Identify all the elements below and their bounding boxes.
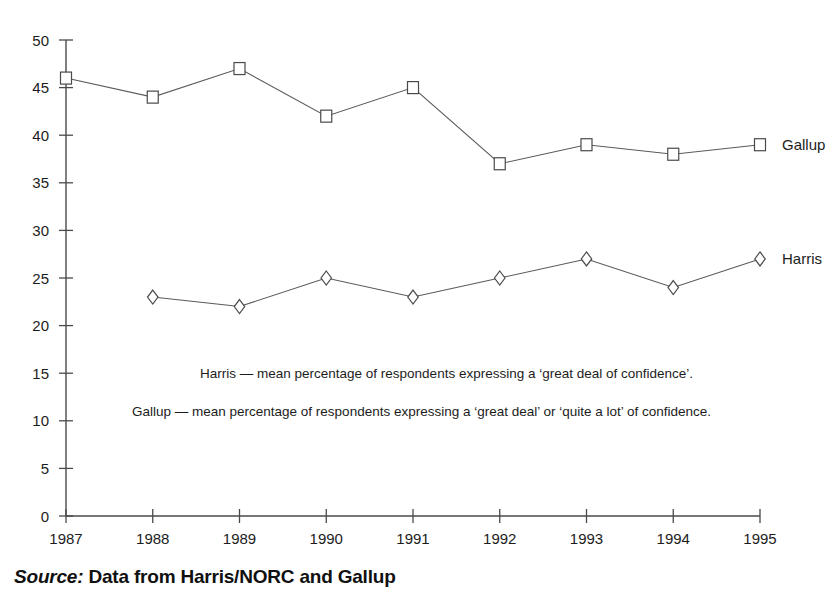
y-tick-label: 35 — [32, 174, 49, 191]
series-label-gallup: Gallup — [782, 136, 825, 153]
annotation-line-2: Gallup — mean percentage of respondents … — [132, 404, 711, 419]
x-tick-label: 1994 — [657, 530, 690, 547]
data-series-group — [61, 63, 766, 314]
marker-gallup — [234, 63, 245, 75]
marker-gallup — [147, 91, 158, 103]
marker-gallup — [581, 139, 592, 151]
y-tick-label: 50 — [32, 32, 49, 49]
marker-harris — [755, 252, 766, 266]
y-tick-label: 5 — [41, 460, 49, 477]
marker-harris — [321, 271, 332, 285]
marker-gallup — [755, 139, 766, 151]
annotation-line-1: Harris — mean percentage of respondents … — [200, 366, 693, 381]
line-chart-plot: 05101520253035404550 1987198819891990199… — [0, 0, 826, 616]
x-tick-label: 1991 — [396, 530, 429, 547]
marker-harris — [668, 281, 679, 295]
marker-gallup — [408, 82, 419, 94]
y-tick-label: 25 — [32, 270, 49, 287]
y-tick-label: 30 — [32, 222, 49, 239]
chart-figure: 05101520253035404550 1987198819891990199… — [0, 0, 826, 616]
series-labels: GallupHarris — [782, 136, 825, 267]
x-axis: 198719881989199019911992199319941995 — [49, 509, 776, 547]
x-tick-label: 1995 — [743, 530, 776, 547]
source-text: Data from Harris/NORC and Gallup — [88, 566, 395, 587]
marker-gallup — [321, 110, 332, 122]
source-keyword: Source: — [14, 566, 83, 587]
y-tick-label: 10 — [32, 412, 49, 429]
x-tick-label: 1989 — [223, 530, 256, 547]
y-tick-label: 15 — [32, 365, 49, 382]
marker-gallup — [668, 148, 679, 160]
chart-annotations: Harris — mean percentage of respondents … — [132, 366, 711, 419]
x-tick-label: 1987 — [49, 530, 82, 547]
y-tick-label: 0 — [41, 508, 49, 525]
source-note: Source: Data from Harris/NORC and Gallup — [14, 566, 396, 588]
x-tick-label: 1990 — [310, 530, 343, 547]
y-tick-label: 40 — [32, 127, 49, 144]
marker-harris — [581, 252, 592, 266]
y-tick-label: 45 — [32, 79, 49, 96]
marker-gallup — [494, 158, 505, 170]
x-tick-label: 1993 — [570, 530, 603, 547]
marker-harris — [234, 300, 245, 314]
marker-harris — [408, 290, 419, 304]
series-line-harris — [153, 259, 760, 307]
marker-gallup — [61, 72, 72, 84]
series-label-harris: Harris — [782, 250, 822, 267]
y-axis: 05101520253035404550 — [32, 32, 73, 525]
y-tick-label: 20 — [32, 317, 49, 334]
marker-harris — [495, 271, 506, 285]
marker-harris — [148, 290, 159, 304]
x-tick-label: 1992 — [483, 530, 516, 547]
x-tick-label: 1988 — [136, 530, 169, 547]
